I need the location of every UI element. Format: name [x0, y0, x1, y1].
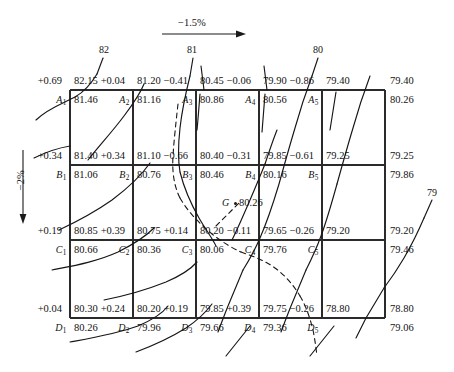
node-label-a3: A3 [160, 95, 192, 105]
ground-d5: 79.06 [390, 323, 414, 334]
delta-d3: +0.19 [132, 304, 188, 315]
design-c5-right: 79.20 [390, 226, 414, 237]
node-label-a1: A1 [34, 95, 66, 105]
design-c5: 79.20 [326, 226, 350, 237]
node-label-c2: C2 [97, 245, 129, 255]
node-label-d5: D5 [286, 323, 318, 333]
ground-a2: 81.16 [137, 95, 161, 106]
ground-c2: 80.36 [137, 245, 161, 256]
node-label-b4: B4 [223, 170, 255, 180]
spot-point-marker [234, 202, 237, 205]
contour-79-right-b [356, 288, 384, 338]
spot-point-label: G [222, 198, 229, 208]
delta-d2: +0.24 [69, 304, 125, 315]
ground-b1: 81.06 [74, 170, 98, 181]
ground-d1: 80.26 [74, 323, 98, 334]
contour-label-79: 79 [427, 188, 437, 198]
ground-a3: 80.86 [200, 95, 224, 106]
ground-b5: 79.86 [390, 170, 414, 181]
ground-b4: 80.16 [263, 170, 287, 181]
node-label-b2: B2 [97, 170, 129, 180]
node-label-d4: D4 [223, 323, 255, 333]
ground-d4: 79.36 [263, 323, 287, 334]
slope-label-horizontal: −1.5% [178, 18, 206, 29]
node-label-a2: A2 [97, 95, 129, 105]
ground-a1: 81.46 [74, 95, 98, 106]
contour-79-upper [337, 76, 370, 184]
design-b5-right: 79.25 [390, 151, 414, 162]
delta-b3: −0.66 [132, 151, 188, 162]
node-label-d1: D1 [34, 323, 66, 333]
node-label-c5: C5 [286, 245, 318, 255]
spot-point-value: 80.26 [239, 198, 263, 209]
ground-d2: 79.96 [137, 323, 161, 334]
ground-c5: 79.46 [390, 245, 414, 256]
node-label-c1: C1 [34, 245, 66, 255]
contour-leader-79 [424, 200, 432, 218]
ground-a5: 80.26 [390, 95, 414, 106]
delta-a1: +0.69 [6, 76, 62, 87]
node-label-a5: A5 [286, 95, 318, 105]
ground-b3: 80.46 [200, 170, 224, 181]
design-a5: 79.40 [326, 76, 350, 87]
delta-b1: +0.34 [6, 151, 62, 162]
design-d5-right: 78.80 [390, 304, 414, 315]
ground-c4: 79.76 [263, 245, 287, 256]
contour-cd-arc-2 [104, 262, 197, 300]
ground-d3: 79.66 [200, 323, 224, 334]
delta-c4: −0.11 [195, 226, 251, 237]
delta-c3: +0.14 [132, 226, 188, 237]
contour-leader-80 [312, 58, 318, 76]
delta-a3: −0.41 [132, 76, 188, 87]
delta-c1: +0.19 [6, 226, 62, 237]
ground-b2: 80.76 [137, 170, 161, 181]
delta-d5: −0.26 [258, 304, 314, 315]
slope-label-vertical: −2% [16, 163, 27, 197]
node-label-c3: C3 [160, 245, 192, 255]
design-d5: 78.80 [326, 304, 350, 315]
contour-label-81: 81 [187, 45, 197, 55]
contour-label-82: 82 [99, 45, 109, 55]
node-label-a4: A4 [223, 95, 255, 105]
slope-arrow-horizontal-head [236, 31, 246, 38]
diagram-vector-layer [0, 0, 454, 372]
node-label-c4: C4 [223, 245, 255, 255]
delta-d1: +0.04 [6, 304, 62, 315]
contour-leader-82 [97, 58, 103, 74]
node-label-d3: D3 [160, 323, 192, 333]
delta-b5: −0.61 [258, 151, 314, 162]
contour-a-seg-5 [330, 92, 336, 130]
delta-b4: −0.31 [195, 151, 251, 162]
design-b5: 79.25 [326, 151, 350, 162]
ground-a4: 80.56 [263, 95, 287, 106]
delta-c2: +0.39 [69, 226, 125, 237]
design-a5-right: 79.40 [390, 76, 414, 87]
node-label-d2: D2 [97, 323, 129, 333]
node-label-b1: B1 [34, 170, 66, 180]
delta-b2: +0.34 [69, 151, 125, 162]
diagram-canvas: −1.5% −2% 82 81 80 79 G 80.26 +0.69 82.1… [0, 0, 454, 372]
slope-arrow-vertical-head [20, 214, 27, 224]
delta-a2: +0.04 [69, 76, 125, 87]
contour-leader-81 [190, 58, 193, 76]
delta-c5: −0.26 [258, 226, 314, 237]
node-label-b3: B3 [160, 170, 192, 180]
ground-c3: 80.06 [200, 245, 224, 256]
contour-label-80: 80 [313, 45, 323, 55]
node-label-b5: B5 [286, 170, 318, 180]
delta-a4: −0.06 [195, 76, 251, 87]
delta-a5: −0.86 [258, 76, 314, 87]
delta-d4: +0.39 [195, 304, 251, 315]
ground-c1: 80.66 [74, 245, 98, 256]
